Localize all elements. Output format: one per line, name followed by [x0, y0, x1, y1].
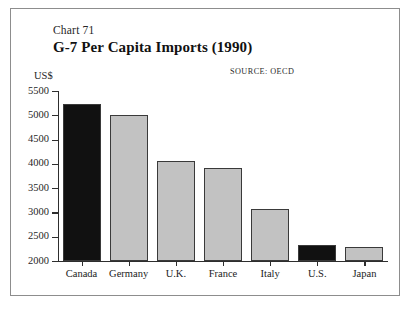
x-axis-tick	[129, 261, 130, 266]
y-axis-tick: 5000	[52, 115, 58, 116]
bar-italy	[251, 209, 289, 262]
x-axis-category-label: U.S.	[294, 268, 341, 279]
bar-u-s	[298, 245, 336, 261]
chart-figure-frame: Chart 71 G-7 Per Capita Imports (1990) S…	[10, 8, 400, 296]
y-axis-tick: 3000	[52, 212, 58, 213]
y-axis-tick: 4000	[52, 164, 58, 165]
x-axis-category-label: Italy	[247, 268, 294, 279]
x-axis-tick	[223, 261, 224, 266]
y-axis-tick: 4500	[52, 140, 58, 141]
x-axis-tick	[364, 261, 365, 266]
x-axis-tick	[176, 261, 177, 266]
y-axis-tick-label: 4500	[28, 132, 49, 146]
y-axis-tick: 2500	[52, 237, 58, 238]
y-axis-line	[58, 91, 59, 261]
x-axis-tick	[317, 261, 318, 266]
y-axis-tick: 3500	[52, 188, 58, 189]
y-axis-tick-label: 4000	[28, 156, 49, 170]
bar-france	[204, 168, 242, 261]
y-axis-tick-label: 2000	[28, 254, 49, 268]
y-axis-tick: 5500	[52, 91, 58, 92]
x-axis-category-label: France	[199, 268, 246, 279]
x-axis-category-label: Japan	[341, 268, 388, 279]
x-axis-category-label: Germany	[105, 268, 152, 279]
y-axis-tick-label: 3500	[28, 181, 49, 195]
y-axis-tick: 2000	[52, 261, 58, 262]
y-axis-tick-label: 2500	[28, 229, 49, 243]
y-axis-tick-label: 3000	[28, 205, 49, 219]
bar-japan	[345, 247, 383, 261]
plot-area: 20002500300035004000450050005500 CanadaG…	[11, 9, 401, 297]
y-axis-tick-label: 5500	[28, 84, 49, 98]
bar-germany	[110, 115, 148, 261]
bar-u-k	[157, 161, 195, 261]
x-axis-category-label: U.K.	[152, 268, 199, 279]
y-axis-tick-label: 5000	[28, 108, 49, 122]
x-axis-tick	[82, 261, 83, 266]
bar-canada	[63, 104, 101, 261]
x-axis-tick	[270, 261, 271, 266]
x-axis-category-label: Canada	[58, 268, 105, 279]
